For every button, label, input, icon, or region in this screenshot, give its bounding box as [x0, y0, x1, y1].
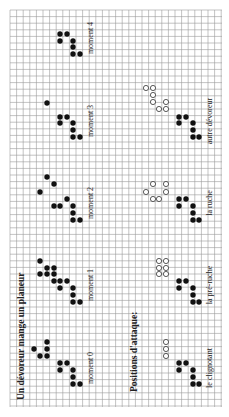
prey-cell [156, 258, 161, 263]
prey-cell [163, 106, 168, 111]
prey-cell [163, 189, 168, 194]
live-cell [70, 374, 75, 379]
prey-cell [163, 258, 168, 263]
prey-cell [156, 265, 161, 270]
live-cell [70, 367, 75, 372]
moment-label-2: moment 2 [86, 187, 95, 219]
live-cell [64, 114, 69, 119]
live-cell [183, 196, 188, 201]
live-cell [44, 346, 49, 351]
live-cell [57, 120, 62, 125]
live-cell [183, 360, 188, 365]
live-cell [183, 278, 188, 283]
prey-cell [156, 271, 161, 276]
live-cell [190, 299, 195, 304]
live-cell [77, 51, 82, 56]
open-cells [143, 85, 168, 358]
live-cell [190, 203, 195, 208]
live-cell [57, 38, 62, 43]
live-cell [196, 381, 201, 386]
moment-label-1: moment 1 [86, 269, 95, 301]
live-cell [70, 38, 75, 43]
prey-cell [163, 265, 168, 270]
prey-cell [156, 106, 161, 111]
live-cell [70, 120, 75, 125]
live-cell [57, 285, 62, 290]
live-cell [37, 258, 42, 263]
live-cell [70, 134, 75, 139]
live-cell [176, 278, 181, 283]
live-cell [190, 367, 195, 372]
live-cell [44, 100, 49, 105]
moment-label-0: moment 0 [86, 352, 95, 384]
live-cell [77, 134, 82, 139]
prey-cell [150, 181, 155, 186]
live-cell [77, 299, 82, 304]
live-cell [196, 217, 201, 222]
live-cell [51, 181, 56, 186]
live-cell [44, 271, 49, 276]
grid [10, 10, 222, 407]
live-cell [190, 120, 195, 125]
live-cell [77, 217, 82, 222]
live-cell [190, 127, 195, 132]
live-cell [57, 367, 62, 372]
live-cell [176, 120, 181, 125]
live-cell [70, 285, 75, 290]
live-cell [190, 210, 195, 215]
live-cell [64, 278, 69, 283]
prey-cell [150, 92, 155, 97]
prey-cell [156, 196, 161, 201]
live-cell [70, 51, 75, 56]
live-cell [37, 353, 42, 358]
prey-cell [150, 196, 155, 201]
live-cell [57, 203, 62, 208]
attack-label-0: le clignotant [205, 347, 214, 388]
live-cell [31, 346, 36, 351]
live-cell [70, 299, 75, 304]
attack-label-3: autre dévoreur [205, 97, 214, 144]
prey-cell [163, 181, 168, 186]
title: Un dévoreur mange un planeur [16, 272, 26, 400]
live-cell [57, 114, 62, 119]
live-cell [64, 360, 69, 365]
live-cell [183, 114, 188, 119]
live-cell [77, 381, 82, 386]
live-cell [51, 271, 56, 276]
prey-cell [163, 353, 168, 358]
live-cell [44, 174, 49, 179]
live-cell [64, 196, 69, 201]
prey-cell [163, 339, 168, 344]
live-cell [44, 339, 49, 344]
prey-cell [163, 271, 168, 276]
live-cell [70, 127, 75, 132]
live-cell [190, 374, 195, 379]
live-cell [57, 360, 62, 365]
prey-cell [150, 85, 155, 90]
prey-cell [143, 85, 148, 90]
live-cell [70, 203, 75, 208]
prey-cell [163, 99, 168, 104]
section2-title: Positions d'attaque: [129, 312, 139, 393]
live-cell [37, 271, 42, 276]
live-cell [51, 203, 56, 208]
prey-cell [150, 99, 155, 104]
prey-cell [143, 189, 148, 194]
live-cell [64, 31, 69, 36]
attack-label-1: la pré-ruche [205, 265, 214, 304]
live-cell [37, 189, 42, 194]
live-cell [70, 381, 75, 386]
live-cell [190, 381, 195, 386]
live-cell [196, 134, 201, 139]
live-cell [190, 217, 195, 222]
life-diagram: Un dévoreur mange un planeur Positions d… [0, 0, 229, 417]
live-cell [190, 134, 195, 139]
live-cell [44, 265, 49, 270]
live-cell [176, 367, 181, 372]
prey-cell [163, 346, 168, 351]
live-cell [176, 203, 181, 208]
live-cell [57, 278, 62, 283]
live-cell [176, 285, 181, 290]
live-cell [70, 210, 75, 215]
live-cell [51, 265, 56, 270]
